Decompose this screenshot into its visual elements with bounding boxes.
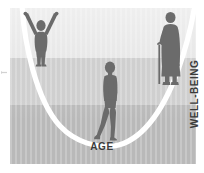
elderly-person-with-cane-icon [157, 12, 180, 85]
x-axis-label: AGE [0, 141, 204, 153]
y-axis-label: WELL-BEING [189, 60, 200, 128]
axis-tick-icon [1, 71, 7, 74]
happiness-curve-figure: AGE WELL-BEING [0, 0, 204, 173]
walking-person-icon [94, 62, 117, 141]
y-axis-label-wrap: WELL-BEING [186, 46, 202, 142]
